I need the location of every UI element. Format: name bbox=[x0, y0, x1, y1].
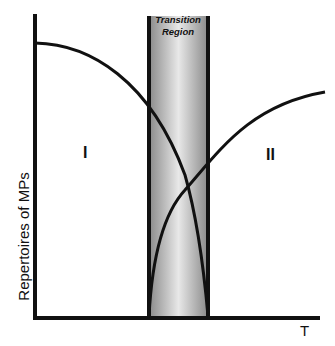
transition-label-line1: Transition bbox=[148, 14, 208, 26]
x-axis-label: T bbox=[300, 322, 309, 339]
transition-region-label: Transition Region bbox=[148, 14, 208, 38]
region-i-label: I bbox=[83, 144, 87, 162]
diagram-canvas bbox=[0, 0, 335, 346]
region-ii-label: II bbox=[266, 146, 275, 164]
transition-region-band bbox=[149, 16, 208, 318]
transition-label-line2: Region bbox=[148, 26, 208, 38]
y-axis-label: Repertoires of MPs bbox=[15, 172, 32, 302]
